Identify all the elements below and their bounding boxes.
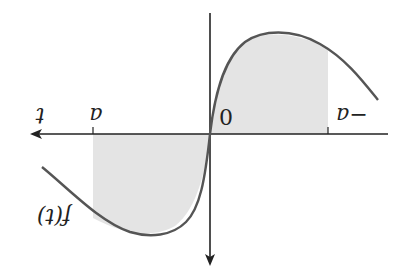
t-axis-label: t [35, 103, 44, 128]
tick-a-label: a [89, 103, 102, 128]
tick-neg-a-label: −a [336, 103, 368, 128]
origin-label: 0 [219, 104, 233, 129]
odd-function-diagram: t a 0 −a f(t) [0, 0, 411, 269]
f-axis-label: f(t) [37, 204, 73, 229]
shaded-area-lower [93, 134, 210, 233]
